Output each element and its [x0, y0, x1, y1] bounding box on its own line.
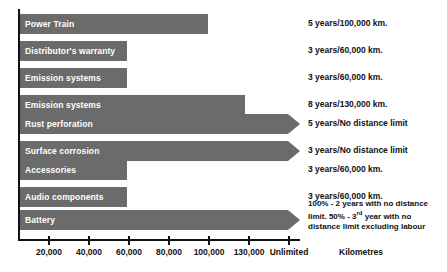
bar-row-emission-systems-2: Emission systems: [20, 95, 245, 115]
value-battery-part2: limit. 50% - 3: [308, 211, 356, 220]
bar-row-emission-systems-1: Emission systems: [20, 68, 127, 88]
bar-row-rust-perforation: Rust perforation: [20, 114, 300, 134]
x-axis-label-5: 130,000: [234, 247, 265, 257]
value-emission-systems-2: 8 years/130,000 km.: [308, 99, 387, 109]
value-emission-systems-1: 3 years/60,000 km.: [308, 72, 383, 82]
bar-label-emission-systems-1: Emission systems: [25, 68, 101, 88]
x-axis-tick-5: [248, 236, 250, 245]
warranty-bar-chart: Power Train Distributor's warranty Emiss…: [0, 0, 447, 272]
bar-row-accessories: Accessories: [20, 160, 127, 180]
x-axis-line: [18, 239, 300, 241]
bar-row-battery: Battery: [20, 210, 300, 230]
value-rust-perforation: 5 years/No distance limit: [308, 118, 408, 128]
x-axis-tick-1: [88, 236, 90, 245]
x-axis-tick-6: [288, 236, 290, 245]
value-battery: 100% - 2 years with no distance limit. 5…: [308, 199, 444, 232]
bar-label-rust-perforation: Rust perforation: [25, 114, 93, 134]
bar-label-surface-corrosion: Surface corrosion: [25, 141, 99, 161]
bar-label-accessories: Accessories: [25, 160, 76, 180]
x-axis-label-2: 60,000: [116, 247, 142, 257]
value-distributors-warranty: 3 years/60,000 km.: [308, 45, 383, 55]
x-axis-label-4: 100,000: [194, 247, 225, 257]
value-surface-corrosion: 3 years/No distance limit: [308, 145, 408, 155]
bar-row-distributors-warranty: Distributor's warranty: [20, 41, 127, 61]
bar-label-distributors-warranty: Distributor's warranty: [25, 41, 115, 61]
bar-label-power-train: Power Train: [25, 14, 74, 34]
x-axis-label-6: Unlimited: [270, 247, 309, 257]
x-axis-title: Kilometres: [339, 247, 383, 257]
x-axis-label-0: 20,000: [36, 247, 62, 257]
bar-row-power-train: Power Train: [20, 14, 208, 34]
bar-battery: [20, 210, 288, 230]
bar-label-audio-components: Audio components: [25, 187, 104, 207]
x-axis-label-3: 80,000: [156, 247, 182, 257]
bar-row-audio-components: Audio components: [20, 187, 127, 207]
bar-row-surface-corrosion: Surface corrosion: [20, 141, 300, 161]
x-axis-tick-3: [168, 236, 170, 245]
arrow-tip-icon-surface-corrosion: [288, 141, 300, 161]
value-accessories: 3 years/60,000 km.: [308, 164, 383, 174]
x-axis-tick-2: [128, 236, 130, 245]
x-axis-tick-4: [208, 236, 210, 245]
bar-label-battery: Battery: [25, 210, 55, 230]
bar-label-emission-systems-2: Emission systems: [25, 95, 101, 115]
x-axis-tick-0: [48, 236, 50, 245]
value-power-train: 5 years/100,000 km.: [308, 18, 387, 28]
value-battery-part1: 100% - 2 years with no distance: [308, 199, 428, 208]
arrow-tip-icon-rust-perforation: [288, 114, 300, 134]
arrow-tip-icon-battery: [288, 210, 300, 230]
x-axis-label-1: 40,000: [76, 247, 102, 257]
